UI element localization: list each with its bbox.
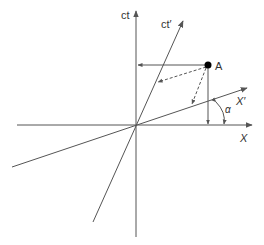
projection-to-ct-prime [158,67,206,82]
projection-to-x-prime [192,68,206,104]
x-prime-label: X′ [235,95,246,107]
x-prime-axis [12,88,247,167]
angle-alpha-label: α [225,104,231,115]
x-label: X [239,132,248,144]
ct-prime-label: ct′ [161,18,172,30]
ct-label: ct [121,9,130,21]
angle-alpha-arc [216,102,224,124]
event-point-a [205,62,212,69]
spacetime-diagram: ct ct′ A X′ α X [0,0,264,245]
ct-prime-axis [93,21,183,222]
point-a-label: A [215,60,223,72]
